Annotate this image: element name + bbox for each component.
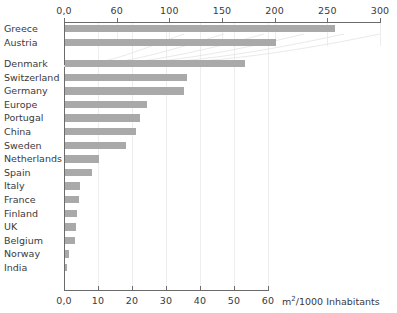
gridline (380, 23, 381, 46)
bar-norway (65, 250, 69, 257)
bar-chart: 0,060100150200250300 0,0102030405060 Gre… (0, 0, 397, 313)
bar-austria (65, 39, 276, 46)
bar-netherlands (65, 155, 99, 162)
bottom-axis-tick-label: 10 (92, 295, 105, 306)
category-label-germany: Germany (4, 85, 48, 96)
bar-switzerland (65, 74, 187, 81)
bottom-axis-tick (98, 286, 99, 290)
category-label-greece: Greece (4, 23, 38, 34)
top-axis-tick (275, 18, 276, 22)
bottom-axis-tick-label: 20 (126, 295, 139, 306)
category-label-india: India (4, 262, 27, 273)
bottom-axis-tick (268, 286, 269, 290)
bottom-axis-tick (200, 286, 201, 290)
bottom-axis-tick (132, 286, 133, 290)
bar-spain (65, 169, 92, 176)
bar-france (65, 196, 79, 203)
category-label-italy: Italy (4, 180, 25, 191)
bar-sweden (65, 142, 126, 149)
category-label-uk: UK (4, 221, 17, 232)
bar-greece (65, 25, 335, 32)
top-axis-tick (169, 18, 170, 22)
top-axis-tick-label: 250 (318, 5, 337, 16)
category-label-norway: Norway (4, 248, 40, 259)
bottom-axis-tick-label: 50 (228, 295, 241, 306)
bar-germany (65, 87, 184, 94)
category-label-austria: Austria (4, 37, 38, 48)
category-label-finland: Finland (4, 208, 38, 219)
bar-italy (65, 182, 80, 189)
category-label-portugal: Portugal (4, 112, 43, 123)
category-label-europe: Europe (4, 99, 37, 110)
bottom-axis-tick (64, 286, 65, 290)
category-label-sweden: Sweden (4, 140, 42, 151)
bar-belgium (65, 237, 75, 244)
category-label-denmark: Denmark (4, 58, 48, 69)
category-label-china: China (4, 126, 31, 137)
top-axis-tick-label: 200 (265, 5, 284, 16)
category-label-netherlands: Netherlands (4, 153, 62, 164)
top-axis-tick-label: 60 (110, 5, 123, 16)
top-axis-tick-label: 300 (371, 5, 390, 16)
bottom-axis-line (64, 290, 269, 291)
bar-china (65, 128, 136, 135)
top-axis-tick (380, 18, 381, 22)
bar-denmark (65, 60, 245, 67)
bar-uk (65, 223, 76, 230)
bar-india (65, 264, 67, 271)
bar-finland (65, 210, 77, 217)
bottom-axis-tick-label: 60 (262, 295, 275, 306)
category-label-column: GreeceAustriaDenmarkSwitzerlandGermanyEu… (2, 0, 60, 313)
category-label-switzerland: Switzerland (4, 72, 59, 83)
bottom-axis-tick-label: 40 (194, 295, 207, 306)
bottom-axis-tick (234, 286, 235, 290)
top-axis-tick-label: 150 (213, 5, 232, 16)
category-label-spain: Spain (4, 167, 31, 178)
top-axis-tick (117, 18, 118, 22)
category-label-france: France (4, 194, 36, 205)
bar-portugal (65, 114, 140, 121)
category-label-belgium: Belgium (4, 235, 43, 246)
top-axis-tick-label: 100 (160, 5, 179, 16)
x-axis-title: m2/1000 Inhabitants (282, 295, 380, 307)
gridline (268, 23, 269, 290)
top-axis-tick (327, 18, 328, 22)
top-axis-tick (222, 18, 223, 22)
bottom-axis-tick-label: 30 (160, 295, 173, 306)
top-axis-tick (64, 18, 65, 22)
bottom-axis-tick (166, 286, 167, 290)
bar-europe (65, 101, 147, 108)
